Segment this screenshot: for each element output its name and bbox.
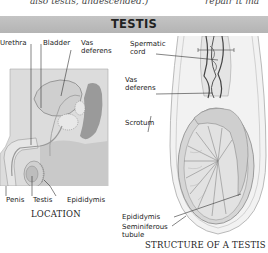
label-vas-deferens-2: deferens	[81, 47, 112, 55]
label-penis: Penis	[6, 196, 24, 204]
structure-leaders	[118, 36, 268, 236]
label-vas-deferens-struct-2: deferens	[125, 84, 156, 92]
running-text-right: repair it ma	[205, 0, 259, 6]
label-vas-deferens-struct-1: Vas	[125, 76, 137, 84]
label-epididymis: Epididymis	[67, 196, 105, 204]
label-spermatic-cord-2: cord	[130, 48, 145, 56]
page-title: TESTIS	[0, 16, 268, 33]
location-illustration	[0, 36, 120, 186]
label-vas-deferens-1: Vas	[81, 39, 93, 47]
label-epididymis-struct: Epididymis	[122, 213, 160, 221]
running-text-left: also testis, undescended.)	[30, 0, 148, 6]
label-bladder: Bladder	[43, 39, 70, 47]
label-scrotum: Scrotum	[125, 119, 154, 127]
label-seminiferous-2: tubule	[122, 231, 144, 239]
title-banner: TESTIS	[0, 16, 268, 33]
label-seminiferous-1: Seminiferous	[122, 223, 168, 231]
caption-structure: STRUCTURE OF A TESTIS	[145, 240, 266, 250]
label-spermatic-cord-1: Spermatic	[130, 40, 166, 48]
label-testis: Testis	[33, 196, 52, 204]
caption-location: LOCATION	[31, 209, 81, 219]
label-urethra: Urethra	[0, 39, 27, 47]
